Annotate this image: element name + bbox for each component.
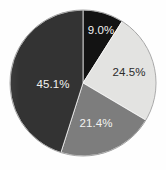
pie-slice-group [10, 10, 156, 156]
pie-chart-figure: 9.0% 24.5% 21.4% 45.1% [0, 0, 166, 170]
pie-chart-svg [0, 0, 166, 170]
